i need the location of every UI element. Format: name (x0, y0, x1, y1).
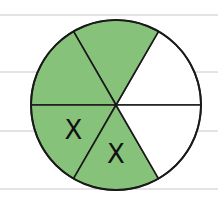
cross-mark: X (107, 139, 125, 169)
fraction-diagram: XX (0, 0, 218, 206)
cross-mark: X (64, 115, 82, 145)
